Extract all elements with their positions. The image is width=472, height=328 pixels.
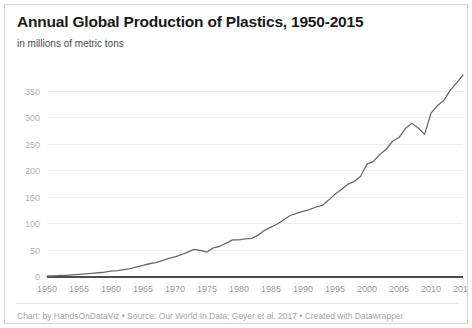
x-tick-label: 1990 [293,284,313,294]
line-chart-svg: 050100150200250300350 195019551960196519… [5,61,467,301]
x-tick-label: 1950 [37,284,57,294]
footer-divider [16,303,458,304]
x-tick-label: 1970 [165,284,185,294]
plastics-production-line [47,75,463,276]
y-tick-label: 300 [25,113,40,123]
y-tick-label: 100 [25,219,40,229]
plot-area: 050100150200250300350 195019551960196519… [5,61,467,301]
x-tick-label: 2000 [357,284,377,294]
x-tick-label: 1995 [325,284,345,294]
page-title: Annual Global Production of Plastics, 19… [17,13,363,31]
x-tick-label: 2005 [389,284,409,294]
x-tick-label: 1955 [69,284,89,294]
chart-subtitle: in millions of metric tons [17,38,124,49]
y-tick-label: 250 [25,140,40,150]
y-tick-label: 50 [30,246,40,256]
x-axis-labels: 1950195519601965197019751980198519901995… [37,284,467,294]
x-tick-label: 2015 [453,284,467,294]
y-tick-label: 0 [35,272,40,282]
chart-card: Annual Global Production of Plastics, 19… [4,4,468,324]
y-axis-labels: 050100150200250300350 [25,87,40,283]
y-tick-label: 150 [25,193,40,203]
gridlines [47,91,463,277]
y-tick-label: 350 [25,87,40,97]
x-tick-label: 1960 [101,284,121,294]
x-tick-label: 1965 [133,284,153,294]
x-tick-label: 1975 [197,284,217,294]
x-tick-label: 1980 [229,284,249,294]
chart-credit: Chart: by HandsOnDataViz • Source: Our W… [17,311,403,321]
y-tick-label: 200 [25,166,40,176]
x-tick-label: 1985 [261,284,281,294]
x-tick-label: 2010 [421,284,441,294]
